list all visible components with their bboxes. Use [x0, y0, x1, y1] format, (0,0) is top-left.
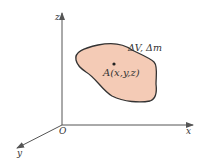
y-axis-label: y: [16, 148, 23, 158]
z-axis-label: z: [54, 12, 60, 22]
y-axis: [17, 125, 62, 148]
region-label: ΔV, Δm: [127, 42, 162, 53]
diagram-canvas: A(x,y,z) ΔV, Δm z x y O: [0, 0, 209, 168]
origin-label: O: [59, 126, 67, 136]
x-axis-label: x: [186, 126, 191, 136]
point-a-dot: [112, 62, 115, 65]
point-a-label: A(x,y,z): [102, 67, 140, 78]
